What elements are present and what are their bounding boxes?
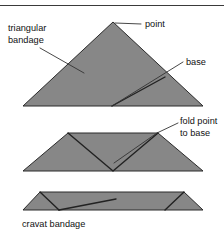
- leader-fold-point-to-base: [157, 123, 178, 133]
- label-triangular-bandage-line1: triangular: [8, 23, 46, 33]
- label-point: point: [145, 19, 165, 29]
- label-base: base: [186, 57, 206, 67]
- triangle-shape: [23, 22, 203, 106]
- stage-open-triangular-bandage: [23, 22, 203, 106]
- label-fold-point-line2: to base: [180, 128, 210, 138]
- leader-point: [115, 23, 141, 24]
- label-cravat-bandage: cravat bandage: [22, 219, 85, 229]
- trapezoid-shape: [23, 133, 203, 171]
- bandage-folding-figure: triangular bandage point base fold point…: [0, 0, 224, 235]
- stage-point-folded-to-base: [23, 123, 203, 171]
- label-fold-point-line1: fold point: [180, 116, 218, 126]
- figure-canvas: triangular bandage point base fold point…: [0, 0, 224, 235]
- label-triangular-bandage-line2: bandage: [8, 35, 44, 45]
- stage-cravat-bandage: [23, 192, 203, 210]
